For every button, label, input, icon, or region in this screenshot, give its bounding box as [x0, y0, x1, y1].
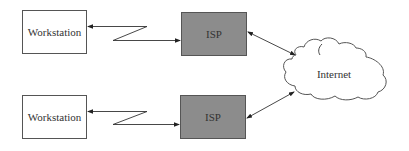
wireless-link-bottom-lower: [113, 112, 179, 125]
internet-node: Internet: [284, 38, 387, 100]
isp-top-node: ISP: [182, 13, 247, 56]
isp-bottom-label: ISP: [205, 111, 221, 123]
wireless-link-bottom: [88, 112, 179, 125]
workstation-top-label: Workstation: [28, 26, 82, 38]
internet-label: Internet: [317, 68, 351, 80]
workstation-top-node: Workstation: [23, 11, 87, 54]
isp-top-internet-link: [248, 32, 295, 55]
network-diagram: Workstation ISP Workstation ISP Internet: [0, 0, 409, 151]
wireless-link-top: [88, 27, 180, 41]
workstation-bottom-label: Workstation: [28, 111, 82, 123]
isp-bottom-internet-link: [247, 92, 294, 118]
isp-bottom-node: ISP: [181, 96, 246, 139]
workstation-bottom-node: Workstation: [23, 96, 87, 139]
isp-top-label: ISP: [206, 28, 222, 40]
wireless-link-top-lower: [113, 27, 180, 41]
